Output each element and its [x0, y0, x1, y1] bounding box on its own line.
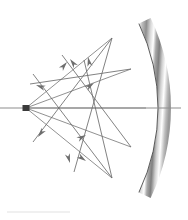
diagram-canvas — [0, 0, 188, 220]
incident-ray-5 — [26, 108, 112, 178]
ray-diagram-figure — [0, 0, 188, 220]
arrowhead-downright-1 — [77, 153, 88, 163]
incident-rays-group — [26, 38, 146, 178]
reflected-ray-5 — [74, 38, 112, 172]
incident-ray-1 — [26, 38, 112, 108]
arrowhead-downleft-1 — [36, 128, 46, 139]
arrowhead-right-2 — [76, 133, 87, 142]
arrowheads-group — [35, 56, 95, 163]
arrowhead-down-1 — [65, 153, 73, 164]
point-source-marker — [23, 105, 30, 111]
reflected-ray-4 — [62, 55, 131, 147]
incident-ray-4 — [26, 108, 131, 147]
reflected-ray-2 — [30, 69, 131, 84]
